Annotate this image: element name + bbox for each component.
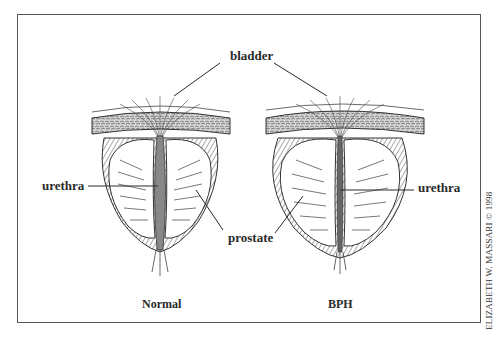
- label-bladder: bladder: [230, 48, 273, 64]
- caption-normal: Normal: [142, 297, 181, 312]
- copyright-credit: ELIZABETH W. MASSARI © 1998: [484, 192, 494, 331]
- label-urethra-normal: urethra: [42, 178, 84, 194]
- label-prostate: prostate: [228, 230, 273, 246]
- bph-prostate-drawing: [266, 96, 424, 274]
- bladder-leader-left: [174, 63, 220, 96]
- bladder-leader-right: [274, 63, 327, 96]
- caption-bph: BPH: [328, 297, 353, 312]
- label-urethra-bph: urethra: [418, 180, 460, 196]
